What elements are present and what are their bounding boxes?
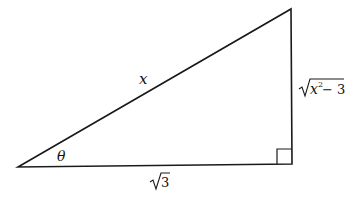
opposite-rest: − 3 xyxy=(322,82,345,97)
opposite-side-label: x 2 − 3 xyxy=(299,79,345,97)
opposite-radicand: x xyxy=(310,81,318,97)
triangle xyxy=(18,9,292,167)
adjacent-side-label: 3 xyxy=(150,173,170,190)
angle-label: θ xyxy=(57,148,66,164)
right-angle-marker xyxy=(277,149,292,164)
triangle-diagram: x x 2 − 3 θ 3 xyxy=(0,0,360,201)
adjacent-radicand: 3 xyxy=(161,175,169,190)
hypotenuse-label: x xyxy=(139,70,148,88)
